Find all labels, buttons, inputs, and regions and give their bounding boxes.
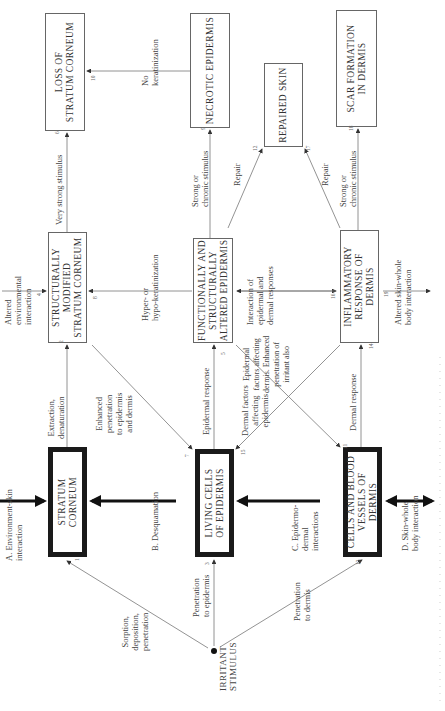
num-19: 19 [383,292,389,298]
num-7: 7 [184,454,190,457]
box-necrotic-epidermis: NECROTIC EPIDERMIS [190,13,230,128]
num-14: 14 [368,344,374,350]
num-17: 17 [305,146,311,152]
num-5: 5 [220,352,226,355]
num-16: 16 [330,294,336,300]
box-inflammatory-response: INFLAMMATORY RESPONSE OF DERMIS [340,230,379,343]
box-stratum-corneum: STRATUM CORNEUM [48,447,87,557]
num-11: 11 [342,444,348,449]
num-10: 10 [90,76,96,82]
label-enhanced-penetration: Enhanced penetration to epidermis and de… [94,393,134,435]
box-loss-stratum-corneum: LOSS OF STRATUM CORNEUM [45,13,85,131]
label-penetration-dermis: Penetration to dermis [292,582,312,621]
skin-irritation-diagram: STRATUM CORNEUM LIVING CELLS OF EPIDERMI… [0,0,445,711]
num-13: 13 [355,560,361,566]
num-8: 8 [92,296,98,299]
num-9: 9 [200,127,206,130]
box-living-cells-epidermis: LIVING CELLS OF EPIDERMIS [195,449,234,557]
num-18: 18 [348,126,354,132]
label-environment-skin: A. Environment-skin interaction [4,489,24,561]
box-functionally-altered-epidermis: FUNCTIONALLY AND STRUCTURALLY ALTERED EP… [193,238,233,343]
label-interaction: Interaction of epidermal and dermal resp… [245,266,275,325]
label-repair-1: Repair [232,163,242,186]
box-repaired-skin: REPAIRED SKIN [264,63,303,147]
label-sorption: Sorption, deposition, penetration [120,613,150,651]
num-12: 12 [252,146,258,152]
box-cells-blood-vessels-dermis: CELLS AND BLOOD VESSELS OF DERMIS [343,447,382,557]
label-desquamation: B. Desquamation [150,492,160,551]
num-4: 4 [36,293,42,296]
label-no-keratinization: No keratinization [140,39,160,86]
label-very-strong: Very strong stimulus [54,155,64,225]
label-altered-environmental: Altered environmental interaction [3,276,33,325]
irritant-stimulus-label: IRRITANT STIMULUS [218,651,238,691]
label-extraction: Extraction, denaturation [46,397,66,439]
label-dermal-response: Dermal response [348,374,358,431]
label-epidermal-factors: Epidermal factors affecting dermis. Enha… [242,336,292,393]
label-epidermal-response: Epidermal response [201,368,211,435]
num-3: 3 [204,562,210,565]
label-hyper-hypo: Hyper- or hypo-keratinization [140,254,160,321]
num-1: 1 [74,558,80,561]
label-strong-chronic-2: Strong or chronic stimulus [338,151,358,207]
box-structurally-modified-sc: STRUCTURALLY MODIFIED STRATUM CORNEUM [48,232,87,343]
box-scar-formation: SCAR FORMATION IN DERMIS [336,10,377,127]
label-skin-body: D. Skin-whole body interaction [400,496,420,551]
label-altered-body: Altered skin-whole body interaction [393,260,413,325]
label-strong-chronic-1: Strong or chronic stimulus [190,151,210,207]
num-15: 15 [240,450,246,456]
label-repair-2: Repair [320,163,330,186]
label-epidermo-dermal: C. Epidermo- dermal interactions [290,505,320,551]
label-penetration-epidermis: Penetration to epidermis [191,575,211,617]
num-6: 6 [54,131,60,134]
num-2: 2 [58,340,64,343]
